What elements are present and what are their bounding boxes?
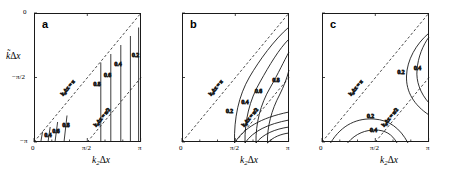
plot-graphics-a: 0.4 0.6 0.8 0.8 0.6 0.4 0.2 k₂Δx = π k₂Δ… [0,0,152,172]
dashed-line-label-a-pi: k₂Δx = π [59,78,76,96]
dashed-line-label-c-halfpi: k₂Δx = π/2 [380,106,399,127]
contour-label-c-4: 0.4 [414,65,421,71]
contour-label-a-2: 0.6 [53,128,60,134]
contour-label-c-1: 0.2 [367,113,374,119]
dashed-line-label-b-halfpi: k₂Δx = π/2 [240,106,259,127]
panel-a: a k̃Δx 0 −π/2 −π 0 π/2 π k2Δx [0,0,152,172]
dashed-line-label-a-halfpi: k₂Δx = π/2 [92,106,111,127]
panel-c: c 0 π/2 π k2Δx [296,0,454,172]
contour-label-a-3: 0.8 [63,122,70,128]
contour-label-a-5: 0.6 [104,72,111,78]
contour-label-b-4: 0.8 [273,77,280,83]
plot-graphics-c: 0.2 0.4 0.2 0.4 k₂Δx = π k₂Δx = π/2 [296,0,454,172]
contour-label-a-1: 0.4 [45,132,52,138]
contour-label-b-2: 0.4 [242,99,249,105]
panel-b: b 0 π/2 π k2Δx [148,0,300,172]
contour-label-c-2: 0.4 [370,127,377,133]
contour-label-a-6: 0.4 [115,61,122,67]
contour-label-a-4: 0.8 [94,81,101,87]
plot-graphics-b: 0.2 0.4 0.6 0.8 k₂Δx = π k₂Δx = π/2 [148,0,300,172]
dashed-line-label-b-pi: k₂Δx = π [207,78,224,96]
figure-container: a k̃Δx 0 −π/2 −π 0 π/2 π k2Δx [0,0,454,172]
contour-label-a-7: 0.2 [132,52,139,58]
contour-label-c-3: 0.2 [398,69,405,75]
contour-label-b-3: 0.6 [255,88,262,94]
contour-label-b-1: 0.2 [226,108,233,114]
dashed-line-label-c-pi: k₂Δx = π [347,78,364,96]
